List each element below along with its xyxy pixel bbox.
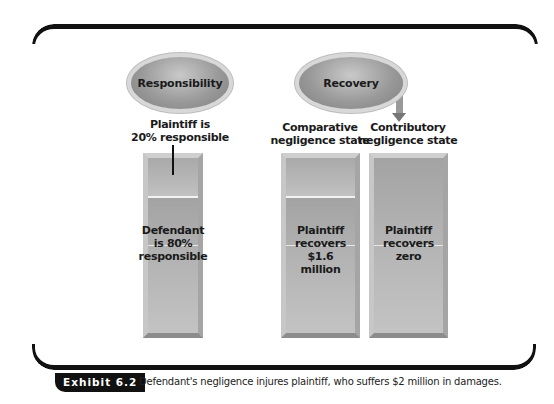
leader-line [172,145,174,175]
comparative-bar: Plaintiff recovers $1.6 million [281,153,360,338]
contributory-segment: Plaintiff recovers zero [374,158,443,333]
text-line: is 80% [139,237,208,250]
responsibility-heading: Responsibility [138,77,223,90]
text-line: Plaintiff [383,224,434,237]
recovery-heading: Recovery [323,77,379,90]
responsibility-ellipse: Responsibility [131,57,229,109]
text-line: Plaintiff [286,224,355,237]
recovery-80-segment: Plaintiff recovers $1.6 million [286,198,355,333]
reduced-20-segment [286,158,355,198]
contributory-bar: Plaintiff recovers zero [369,153,448,338]
defendant-80-segment: Defendant is 80% responsible [148,198,198,333]
contributory-label: Contributory negligence state [350,121,466,147]
text-line: Defendant [139,224,208,237]
comparative-recovery-text: Plaintiff recovers $1.6 million [286,224,355,333]
frame-top-border [32,24,538,69]
exhibit-caption: Defendant's negligence injures plaintiff… [139,376,502,387]
contributory-recovery-text: Plaintiff recovers zero [383,224,434,333]
text-line: $1.6 million [286,250,355,276]
label-line: 20% responsible [115,131,245,144]
recovery-ellipse: Recovery [299,57,403,109]
plaintiff-responsibility-label: Plaintiff is 20% responsible [115,118,245,144]
label-line: Plaintiff is [115,118,245,131]
exhibit-badge: Exhibit 6.2 [55,373,145,392]
label-line: Contributory [350,121,466,134]
defendant-share-text: Defendant is 80% responsible [139,224,208,333]
responsibility-bar: Defendant is 80% responsible [143,153,203,338]
label-line: negligence state [350,134,466,147]
text-line: recovers [286,237,355,250]
text-line: recovers [383,237,434,250]
text-line: responsible [139,250,208,263]
text-line: zero [383,250,434,263]
